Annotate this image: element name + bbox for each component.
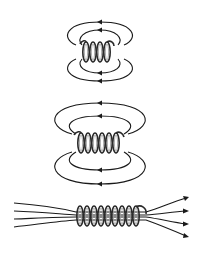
field-loop-outer-top [55,103,145,134]
field-loop-inner-bottom [80,59,120,73]
field-loop-outer-bottom [55,152,145,184]
field-loop-inner-bottom [69,152,130,170]
arrow-left-icon [97,71,102,76]
arrow-left-icon [97,168,102,173]
arrow-left-icon [97,101,102,106]
arrow-left-icon [97,182,102,187]
long-coil-panel [14,196,189,238]
arrow-left-icon [97,79,102,84]
arrow-left-icon [97,20,102,25]
coil-turns [77,206,146,226]
medium-coil-panel [55,101,145,187]
arrow-right-icon [183,222,189,227]
solenoid-field-diagram [0,0,202,254]
arrow-left-icon [97,28,102,33]
arrow-left-icon [97,114,102,119]
arrow-right-icon [183,209,189,214]
arrow-right-icon [183,233,189,238]
coil-turns [74,132,124,153]
coil-turns [80,41,114,62]
short-coil-panel [68,20,133,84]
